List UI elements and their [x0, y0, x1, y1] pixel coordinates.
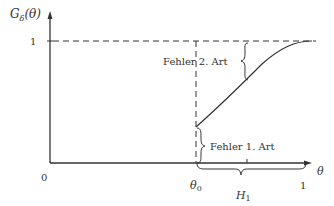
power-curve: [196, 41, 312, 127]
x-tick-1-label: 1: [300, 180, 306, 191]
y-tick-1-label: 1: [30, 36, 36, 47]
y-axis-label: Gδ(θ): [10, 7, 41, 23]
type1-error-brace: [197, 128, 205, 163]
h1-brace: [197, 163, 306, 175]
type1-error-label: Fehler 1. Art: [210, 141, 275, 152]
theta0-label: θ0: [190, 179, 202, 193]
h1-label: H1: [235, 189, 251, 203]
power-function-diagram: Fehler 2. Art Fehler 1. Art Gδ(θ) 1 0 θ0…: [0, 0, 334, 206]
y-axis-arrow-icon: [48, 11, 53, 19]
type2-error-label: Fehler 2. Art: [163, 56, 228, 67]
origin-label: 0: [41, 172, 47, 183]
x-axis-label: θ: [317, 165, 324, 178]
x-axis-arrow-icon: [304, 161, 312, 166]
type2-error-brace: [241, 43, 248, 80]
